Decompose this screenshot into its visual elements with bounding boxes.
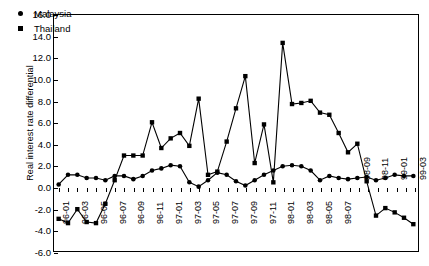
data-point-thailand <box>187 144 191 148</box>
x-tick-label: 96-11 <box>156 202 165 224</box>
x-tick-mark <box>59 188 60 192</box>
data-point-malaysia <box>56 182 61 187</box>
data-point-malaysia <box>66 173 71 178</box>
data-point-thailand <box>243 74 247 78</box>
x-tick-mark <box>406 188 407 192</box>
data-point-thailand <box>383 206 387 210</box>
x-tick-label: 96-03 <box>81 201 90 224</box>
x-tick-label: 98-11 <box>381 158 390 180</box>
x-tick-label: 97-01 <box>175 201 184 224</box>
data-point-malaysia <box>411 174 416 179</box>
data-point-malaysia <box>131 177 136 182</box>
circle-marker-icon <box>13 11 27 16</box>
y-tick-mark <box>54 166 58 167</box>
data-point-malaysia <box>346 177 351 182</box>
data-point-malaysia <box>224 173 229 178</box>
x-tick-mark <box>218 188 219 192</box>
x-tick-mark <box>256 188 257 192</box>
x-tick-mark <box>275 188 276 192</box>
data-point-thailand <box>346 150 350 154</box>
data-point-malaysia <box>140 174 145 179</box>
y-tick-label: 12.0 <box>33 54 52 64</box>
data-point-thailand <box>94 221 98 225</box>
x-tick-label: 96-05 <box>100 201 109 224</box>
x-tick-mark <box>359 188 360 192</box>
data-point-malaysia <box>252 178 257 183</box>
x-tick-mark <box>321 188 322 192</box>
x-tick-mark <box>106 188 107 192</box>
x-tick-mark <box>124 188 125 192</box>
legend-item-thailand: Thailand <box>13 21 72 36</box>
data-point-malaysia <box>206 178 211 183</box>
data-point-malaysia <box>336 176 341 181</box>
x-tick-mark <box>153 188 154 192</box>
x-tick-mark <box>171 188 172 192</box>
x-tick-label: 99-01 <box>400 157 409 180</box>
x-tick-label: 96-07 <box>119 201 128 224</box>
x-tick-mark <box>284 188 285 192</box>
legend-label-thailand: Thailand <box>34 23 70 34</box>
y-tick-mark <box>54 188 58 189</box>
y-tick-label: 4.0 <box>38 140 51 150</box>
y-tick-mark <box>54 231 58 232</box>
data-point-thailand <box>336 131 340 135</box>
square-marker-icon <box>13 26 27 31</box>
data-point-thailand <box>327 113 331 117</box>
data-point-thailand <box>308 99 312 103</box>
y-tick-mark <box>54 37 58 38</box>
x-tick-mark <box>265 188 266 192</box>
legend-item-malaysia: Malaysia <box>13 6 72 21</box>
x-tick-mark <box>350 188 351 192</box>
data-point-malaysia <box>318 178 323 183</box>
y-tick-mark <box>54 58 58 59</box>
data-point-thailand <box>140 153 144 157</box>
series-line-thailand <box>59 43 414 224</box>
data-point-thailand <box>355 142 359 146</box>
x-tick-label: 98-01 <box>287 201 296 224</box>
y-tick-label: -2.0 <box>35 205 51 215</box>
x-tick-mark <box>96 188 97 192</box>
x-tick-mark <box>331 188 332 192</box>
data-point-thailand <box>290 102 294 106</box>
data-point-malaysia <box>290 163 295 168</box>
data-point-thailand <box>280 41 284 45</box>
data-point-malaysia <box>355 176 360 181</box>
data-point-malaysia <box>308 168 313 173</box>
x-tick-label: 97-07 <box>231 201 240 224</box>
data-point-malaysia <box>159 166 164 171</box>
data-point-malaysia <box>168 163 173 168</box>
x-tick-mark <box>378 188 379 192</box>
x-tick-label: 98-05 <box>325 201 334 224</box>
x-tick-mark <box>68 188 69 192</box>
data-point-thailand <box>112 178 116 182</box>
data-point-thailand <box>374 213 378 217</box>
x-tick-label: 97-11 <box>269 202 278 224</box>
data-point-malaysia <box>327 174 332 179</box>
y-tick-label: 2.0 <box>38 162 51 172</box>
data-point-malaysia <box>374 178 379 183</box>
x-tick-label: 98-09 <box>363 157 372 180</box>
data-point-malaysia <box>178 164 183 169</box>
x-tick-mark <box>340 188 341 192</box>
data-point-thailand <box>122 153 126 157</box>
x-tick-mark <box>162 188 163 192</box>
y-tick-mark <box>54 253 58 254</box>
x-tick-label: 97-09 <box>250 201 259 224</box>
y-tick-label: -6.0 <box>35 248 51 258</box>
data-point-thailand <box>178 131 182 135</box>
x-tick-mark <box>368 188 369 192</box>
x-tick-mark <box>303 188 304 192</box>
x-tick-mark <box>115 188 116 192</box>
x-tick-label: 98-03 <box>306 201 315 224</box>
data-point-malaysia <box>280 164 285 169</box>
y-tick-label: 6.0 <box>38 118 51 128</box>
data-point-malaysia <box>75 173 80 178</box>
data-point-thailand <box>75 207 79 211</box>
x-tick-mark <box>134 188 135 192</box>
chart-legend: Malaysia Thailand <box>13 6 72 36</box>
chart-container: Real interest rate differential 16.014.0… <box>0 0 429 266</box>
y-tick-mark <box>54 210 58 211</box>
plot-area: 16.014.012.010.08.06.04.02.00.0-2.0-4.0-… <box>53 14 419 252</box>
x-tick-mark <box>246 188 247 192</box>
y-tick-label: 10.0 <box>33 75 52 85</box>
